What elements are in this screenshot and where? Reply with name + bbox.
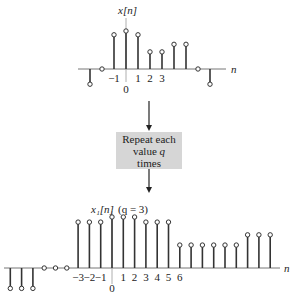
- bottom-sample-marker: [76, 220, 80, 224]
- top-sample-6: [196, 67, 200, 71]
- top-sample--1: [112, 33, 116, 69]
- bottom-sample-2: [132, 215, 136, 268]
- box-line-2-prefix: value: [133, 145, 160, 157]
- top-stem-plot: n x[n] −10123: [78, 4, 237, 95]
- top-sample-marker: [196, 67, 200, 71]
- top-tick-label: 1: [135, 72, 141, 84]
- bottom-signal-param: (q = 3): [118, 203, 148, 216]
- bottom-sample-9: [212, 243, 216, 268]
- bottom-tick-label: −2: [84, 271, 96, 283]
- bottom-stem-plot: n x₁[n] (q = 3) −3−2−10123456: [4, 203, 290, 294]
- bottom-sample-marker: [257, 233, 261, 237]
- bottom-tick-label: 0: [109, 282, 115, 294]
- bottom-sample-0: [110, 215, 114, 268]
- top-sample-4: [172, 42, 176, 69]
- bottom-sample-marker: [19, 286, 23, 290]
- top-sample-marker: [172, 42, 176, 46]
- bottom-sample-marker: [155, 220, 159, 224]
- top-sample-marker: [88, 82, 92, 86]
- bottom-sample--8: [19, 268, 23, 291]
- bottom-sample-8: [200, 243, 204, 268]
- box-q-variable: q: [160, 145, 166, 157]
- bottom-sample-marker: [223, 243, 227, 247]
- bottom-tick-label: 3: [143, 271, 149, 283]
- bottom-sample-11: [234, 243, 238, 268]
- bottom-sample--5: [53, 266, 57, 270]
- bottom-sample-marker: [42, 266, 46, 270]
- bottom-sample-marker: [110, 215, 114, 219]
- top-sample-7: [208, 69, 212, 86]
- bottom-sample-marker: [234, 243, 238, 247]
- repeat-process-box: Repeat each value q times: [116, 132, 182, 169]
- bottom-sample-marker: [166, 220, 170, 224]
- top-sample-marker: [160, 50, 164, 54]
- bottom-sample-marker: [245, 233, 249, 237]
- top-sample-marker: [124, 29, 128, 33]
- bottom-sample-marker: [178, 243, 182, 247]
- top-tick-label: 0: [123, 83, 129, 95]
- bottom-sample-4: [155, 220, 159, 268]
- top-sample-marker: [112, 33, 116, 37]
- arrowhead-bottom: [146, 187, 152, 193]
- top-sample-marker: [100, 67, 104, 71]
- top-tick-label: 2: [147, 72, 153, 84]
- bottom-tick-label: 6: [177, 271, 183, 283]
- bottom-sample--6: [42, 266, 46, 270]
- bottom-tick-label: 1: [121, 271, 127, 283]
- bottom-sample-marker: [87, 220, 91, 224]
- top-sample-0: [124, 29, 128, 69]
- bottom-sample-12: [245, 233, 249, 268]
- box-line-3: times: [137, 157, 161, 169]
- bottom-signal-label: x₁[n]: [90, 203, 114, 215]
- top-sample-marker: [184, 42, 188, 46]
- top-sample-marker: [208, 82, 212, 86]
- bottom-tick-label: −1: [95, 271, 107, 283]
- bottom-sample--4: [65, 266, 69, 270]
- bottom-sample-marker: [8, 286, 12, 290]
- bottom-sample-7: [189, 243, 193, 268]
- bottom-sample-10: [223, 243, 227, 268]
- bottom-sample-marker: [121, 215, 125, 219]
- bottom-sample--3: [76, 220, 80, 268]
- bottom-sample--1: [99, 220, 103, 268]
- bottom-sample-marker: [200, 243, 204, 247]
- bottom-sample--2: [87, 220, 91, 268]
- box-line-1: Repeat each: [122, 133, 175, 145]
- top-sample-3: [160, 50, 164, 69]
- top-sample-5: [184, 42, 188, 69]
- bottom-sample-marker: [31, 286, 35, 290]
- bottom-sample-marker: [65, 266, 69, 270]
- bottom-sample-marker: [132, 215, 136, 219]
- bottom-tick-label: 5: [166, 271, 172, 283]
- bottom-sample-6: [178, 243, 182, 268]
- arrowhead-top: [146, 125, 152, 131]
- bottom-tick-label: 4: [154, 271, 160, 283]
- top-sample-marker: [148, 50, 152, 54]
- bottom-sample-marker: [189, 243, 193, 247]
- top-sample--3: [88, 69, 92, 86]
- bottom-sample-marker: [53, 266, 57, 270]
- box-line-2: value q: [133, 145, 165, 157]
- bottom-sample-3: [144, 220, 148, 268]
- bottom-sample-14: [268, 233, 272, 268]
- bottom-sample-13: [257, 233, 261, 268]
- bottom-sample--7: [31, 268, 35, 291]
- bottom-sample-1: [121, 215, 125, 268]
- bottom-sample-marker: [268, 233, 272, 237]
- bottom-tick-label: 2: [132, 271, 138, 283]
- bottom-sample-marker: [99, 220, 103, 224]
- top-sample-marker: [136, 33, 140, 37]
- bottom-sample--9: [8, 268, 12, 291]
- top-signal-label: x[n]: [117, 4, 137, 16]
- bottom-axis-label: n: [284, 262, 290, 274]
- top-sample-1: [136, 33, 140, 69]
- top-axis-label: n: [231, 63, 237, 75]
- bottom-sample-marker: [212, 243, 216, 247]
- top-tick-label: 3: [159, 72, 165, 84]
- bottom-sample-marker: [144, 220, 148, 224]
- top-tick-label: −1: [108, 72, 120, 84]
- top-sample--2: [100, 67, 104, 71]
- bottom-sample-5: [166, 220, 170, 268]
- top-sample-2: [148, 50, 152, 69]
